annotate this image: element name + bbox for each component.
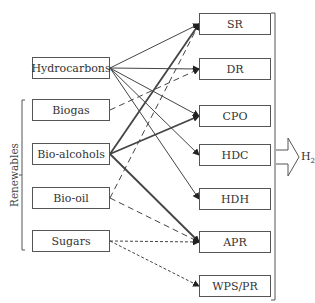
process-box-hdh: HDH [199,188,271,210]
process-box-cpo: CPO [199,105,271,127]
edge-sugars-to-apr [110,241,199,242]
edge-hydrocarbons-to-hdc [110,68,199,155]
process-box-wpspr: WPS/PR [199,275,271,297]
process-bracket [271,13,275,300]
process-box-dr: DR [199,58,271,80]
source-box-biooil: Bio-oil [32,187,110,209]
source-box-biogas: Biogas [32,99,110,121]
source-box-sugars: Sugars [32,230,110,252]
process-box-apr: APR [199,231,271,253]
source-box-bioalcohols: Bio-alcohols [32,143,110,165]
source-box-hydrocarbons: Hydrocarbons [32,57,110,79]
process-box-hdc: HDC [199,144,271,166]
edge-hydrocarbons-to-sr [110,24,199,68]
process-box-sr: SR [199,13,271,35]
renewables-label: Renewables [8,143,20,207]
edge-hydrocarbons-to-dr [110,68,199,69]
edge-bioalcohols-to-apr [110,154,199,242]
edge-sugars-to-wpspr [110,241,199,286]
h2-output-label: H2 [301,150,315,165]
hydrogen-production-diagram: HydrocarbonsBiogasBio-alcoholsBio-oilSug… [0,0,315,303]
edge-biooil-to-apr [110,198,199,242]
h2-output-arrow [276,138,299,176]
